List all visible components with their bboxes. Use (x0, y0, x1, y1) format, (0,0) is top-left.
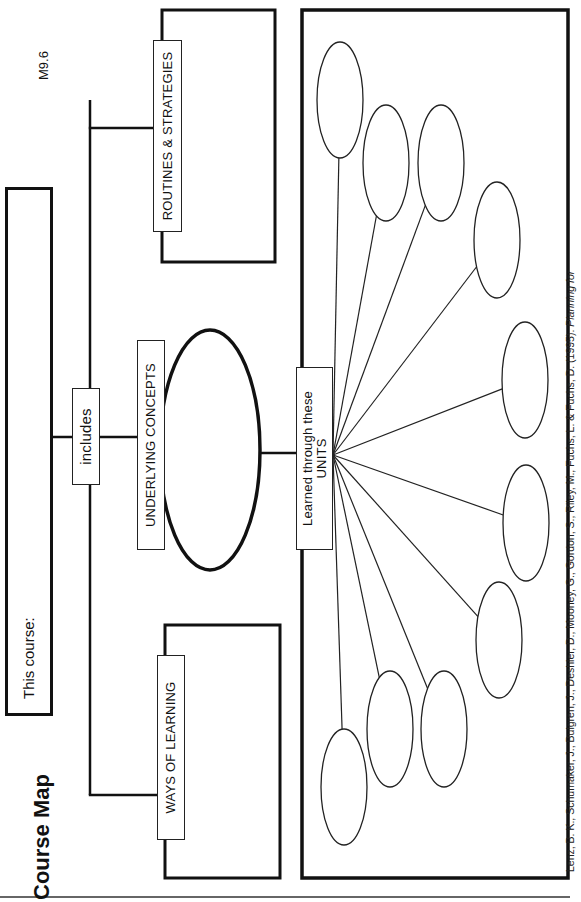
ways-label: WAYS OF LEARNING (157, 655, 185, 840)
unit-slot-ellipse[interactable] (367, 671, 413, 787)
unit-spoke (333, 205, 425, 455)
includes-label: includes (72, 388, 100, 485)
course-description-box[interactable]: This course: (5, 187, 53, 716)
unit-ellipses (317, 42, 549, 845)
citation-title: Planning for (564, 271, 576, 327)
units-label-line2: UNITS (315, 439, 329, 479)
page-code: M9.6 (36, 51, 51, 80)
routines-label: ROUTINES & STRATEGIES (153, 40, 182, 232)
unit-spoke (333, 216, 376, 455)
unit-slot-ellipse[interactable] (502, 322, 548, 438)
citation-text: Lenz, B. K., Schumaker, J., Bulgren, J.,… (564, 330, 576, 872)
course-map-page: Course Map M9.6 This course: includes RO… (0, 0, 581, 902)
citation: Lenz, B. K., Schumaker, J., Bulgren, J.,… (564, 271, 576, 872)
unit-spoke (333, 455, 379, 678)
course-prompt: This course: (20, 617, 37, 699)
units-label: Learned through these UNITS (296, 367, 333, 550)
unit-slot-ellipse[interactable] (474, 182, 520, 298)
unit-slot-ellipse[interactable] (503, 465, 549, 581)
concepts-ellipse[interactable] (160, 330, 260, 570)
concepts-label: UNDERLYING CONCEPTS (137, 340, 165, 550)
unit-slot-ellipse[interactable] (421, 671, 467, 787)
unit-slot-ellipse[interactable] (418, 105, 464, 221)
unit-slot-ellipse[interactable] (476, 582, 522, 698)
unit-spoke (333, 455, 478, 617)
unit-slot-ellipse[interactable] (317, 42, 363, 158)
page-title: Course Map (29, 774, 55, 900)
unit-slot-ellipse[interactable] (363, 105, 409, 221)
unit-spoke (333, 455, 342, 729)
units-label-line1: Learned through these (301, 391, 315, 526)
unit-spoke (333, 455, 503, 515)
unit-slot-ellipse[interactable] (321, 729, 367, 845)
unit-spoke (333, 158, 339, 455)
unit-spoke (333, 455, 428, 688)
